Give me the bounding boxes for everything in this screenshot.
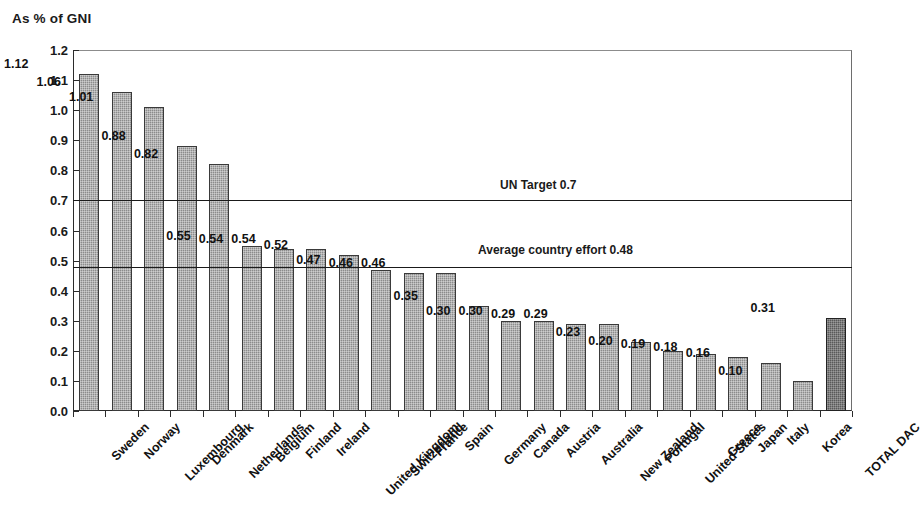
bar-slot bbox=[631, 50, 651, 411]
bar[interactable] bbox=[534, 321, 554, 411]
bar-value-label: 0.29 bbox=[491, 307, 515, 321]
bar-value-label: 0.29 bbox=[523, 307, 547, 321]
x-axis-tick-mark bbox=[365, 411, 366, 417]
bar-value-label: 0.88 bbox=[101, 129, 125, 143]
bar[interactable] bbox=[436, 273, 456, 411]
bar[interactable] bbox=[371, 270, 391, 411]
bar-value-label: 0.52 bbox=[264, 238, 288, 252]
bar-value-label: 0.30 bbox=[458, 304, 482, 318]
bar-slot bbox=[469, 50, 489, 411]
y-axis-tick-label: 0.2 bbox=[34, 343, 68, 358]
bar-slot bbox=[144, 50, 164, 411]
bar-value-label: 0.19 bbox=[621, 337, 645, 351]
bar-slot bbox=[339, 50, 359, 411]
bar-slot bbox=[793, 50, 813, 411]
y-axis-tick-label: 0.8 bbox=[34, 163, 68, 178]
bar[interactable] bbox=[274, 249, 294, 411]
bar-slot bbox=[436, 50, 456, 411]
x-axis-tick-mark bbox=[203, 411, 204, 417]
bar-value-label: 0.54 bbox=[199, 232, 223, 246]
bar-value-label: 0.30 bbox=[426, 304, 450, 318]
x-axis-tick-mark bbox=[73, 411, 74, 417]
bar[interactable] bbox=[663, 351, 683, 411]
bar-slot bbox=[371, 50, 391, 411]
bar-value-label: 0.23 bbox=[556, 325, 580, 339]
y-axis-tick-label: 0.3 bbox=[34, 313, 68, 328]
bar-slot bbox=[112, 50, 132, 411]
x-axis-tick-mark bbox=[170, 411, 171, 417]
bar-value-label: 0.18 bbox=[653, 340, 677, 354]
x-axis-category-label: Italy bbox=[784, 420, 812, 448]
reference-line-label: UN Target 0.7 bbox=[500, 178, 576, 192]
x-axis-tick-mark bbox=[722, 411, 723, 417]
bar-slot bbox=[566, 50, 586, 411]
x-axis-tick-mark bbox=[333, 411, 334, 417]
x-axis-tick-mark bbox=[463, 411, 464, 417]
bar-value-label: 0.82 bbox=[134, 147, 158, 161]
bar-value-label: 1.12 bbox=[4, 57, 28, 71]
bar[interactable] bbox=[696, 354, 716, 411]
x-axis-tick-mark bbox=[398, 411, 399, 417]
x-axis-tick-mark bbox=[268, 411, 269, 417]
x-axis-tick-mark bbox=[852, 411, 853, 417]
y-axis: 0.00.10.20.30.40.50.60.70.80.91.01.11.2 bbox=[24, 50, 68, 411]
x-axis-tick-mark bbox=[235, 411, 236, 417]
bar-slot bbox=[826, 50, 846, 411]
x-axis-category-label: Australia bbox=[598, 420, 646, 468]
bar[interactable] bbox=[306, 249, 326, 411]
x-axis-tick-mark bbox=[300, 411, 301, 417]
bar[interactable] bbox=[631, 342, 651, 411]
bar-slot bbox=[209, 50, 229, 411]
reference-line-label: Average country effort 0.48 bbox=[478, 243, 633, 257]
y-axis-tick-label: 0.6 bbox=[34, 223, 68, 238]
x-axis-tick-mark bbox=[657, 411, 658, 417]
x-axis-tick-mark bbox=[787, 411, 788, 417]
bar-slot bbox=[728, 50, 748, 411]
bar[interactable] bbox=[242, 246, 262, 411]
bar-value-label: 0.20 bbox=[588, 334, 612, 348]
bar[interactable] bbox=[761, 363, 781, 411]
bar[interactable] bbox=[826, 318, 846, 411]
bar[interactable] bbox=[501, 321, 521, 411]
x-axis-tick-mark bbox=[527, 411, 528, 417]
bar-value-label: 0.10 bbox=[718, 364, 742, 378]
bar[interactable] bbox=[177, 146, 197, 411]
x-axis-tick-mark bbox=[820, 411, 821, 417]
y-axis-tick-label: 0.4 bbox=[34, 283, 68, 298]
bar[interactable] bbox=[79, 74, 99, 411]
bar-value-label: 0.46 bbox=[361, 256, 385, 270]
x-axis-tick-mark bbox=[560, 411, 561, 417]
bar[interactable] bbox=[469, 306, 489, 411]
bar-slot bbox=[242, 50, 262, 411]
bar[interactable] bbox=[339, 255, 359, 411]
y-axis-tick-label: 0.9 bbox=[34, 133, 68, 148]
bar-slot bbox=[404, 50, 424, 411]
y-axis-tick-label: 0.5 bbox=[34, 253, 68, 268]
y-axis-tick-label: 0.0 bbox=[34, 404, 68, 419]
x-axis-tick-mark bbox=[625, 411, 626, 417]
x-axis-category-label: Korea bbox=[820, 420, 855, 455]
reference-line bbox=[73, 200, 852, 201]
bar-value-label: 1.06 bbox=[37, 75, 61, 89]
bar-value-label: 0.54 bbox=[231, 232, 255, 246]
bar-value-label: 0.35 bbox=[394, 289, 418, 303]
bar-value-label: 0.46 bbox=[329, 256, 353, 270]
bar[interactable] bbox=[793, 381, 813, 411]
bar-slot bbox=[501, 50, 521, 411]
x-axis-tick-mark bbox=[495, 411, 496, 417]
x-axis-category-label: Spain bbox=[462, 420, 496, 454]
bar-slot bbox=[306, 50, 326, 411]
bar-value-label: 0.47 bbox=[296, 253, 320, 267]
bar-slot bbox=[274, 50, 294, 411]
x-axis-tick-mark bbox=[592, 411, 593, 417]
bar-value-label: 0.31 bbox=[751, 301, 775, 315]
reference-line bbox=[73, 267, 852, 268]
y-axis-tick-label: 1.0 bbox=[34, 103, 68, 118]
y-axis-tick-label: 0.1 bbox=[34, 373, 68, 388]
x-axis-tick-mark bbox=[430, 411, 431, 417]
bar-value-label: 0.55 bbox=[166, 229, 190, 243]
chart-title: As % of GNI bbox=[12, 11, 91, 26]
x-axis-tick-mark bbox=[138, 411, 139, 417]
bar-slot bbox=[534, 50, 554, 411]
